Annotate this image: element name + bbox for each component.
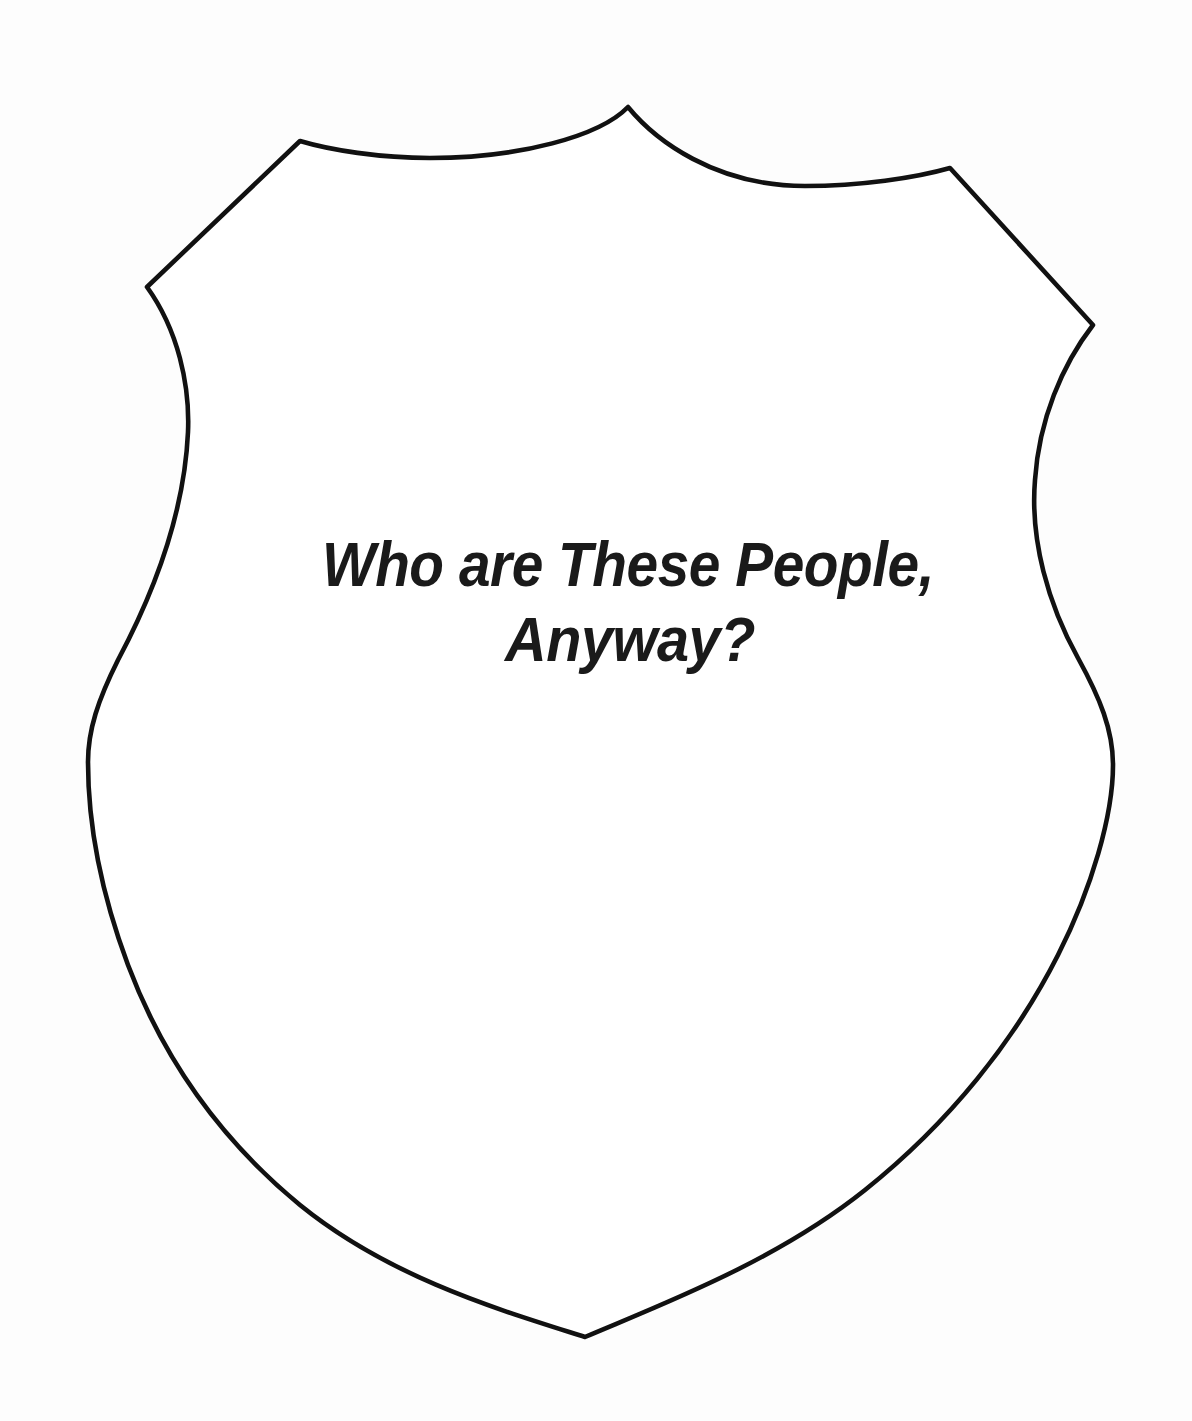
shield-badge-illustration: Who are These People, Anyway? [0,0,1192,1421]
badge-title-line-1: Who are These People, [322,529,934,599]
badge-title-line-2: Anyway? [503,604,755,674]
